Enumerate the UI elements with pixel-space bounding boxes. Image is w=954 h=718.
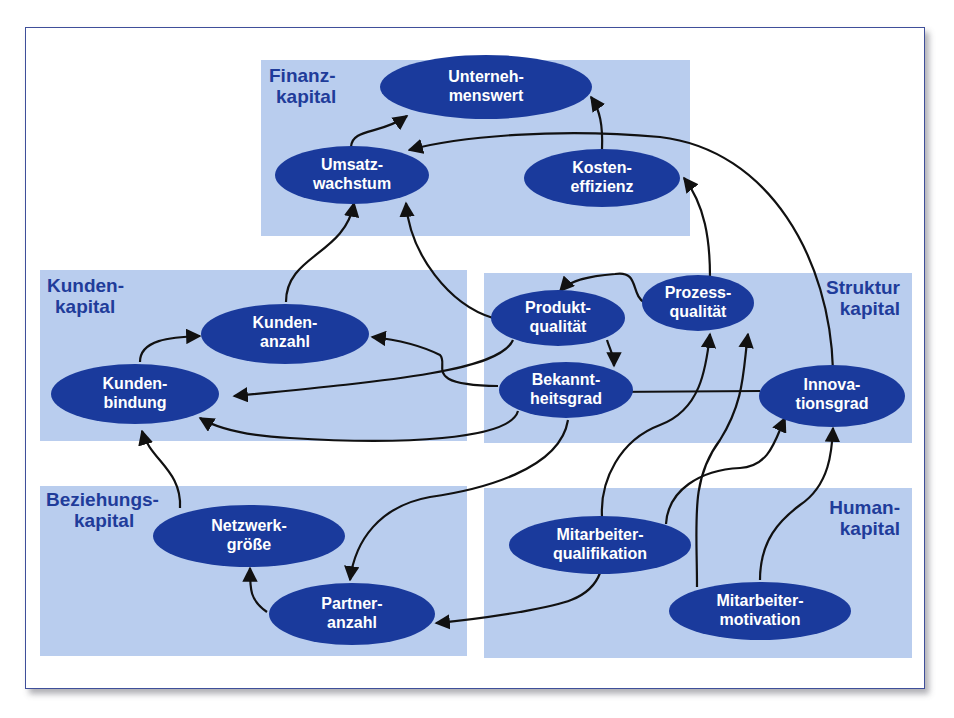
panel-label-human-line1: Human- bbox=[829, 497, 900, 518]
node-prozessqualitaet: Prozess- qualität bbox=[642, 275, 754, 331]
panel-label-kunden-line2: kapital bbox=[55, 296, 115, 317]
node-produktqualitaet: Produkt- qualität bbox=[491, 290, 625, 346]
node-kosteneffizienz: Kosten- effizienz bbox=[524, 149, 680, 207]
panel-label-struktur-line1: Struktur bbox=[826, 277, 901, 298]
node-label-line1: Mitarbeiter- bbox=[716, 592, 803, 609]
panel-label-beziehungs-line2: kapital bbox=[74, 510, 134, 531]
panel-label-finanz-line1: Finanz- bbox=[269, 65, 336, 86]
panel-label-beziehungs-line1: Beziehungs- bbox=[46, 489, 159, 510]
node-label-line2: wachstum bbox=[312, 175, 391, 192]
node-netzwerkgroesse: Netzwerk- größe bbox=[153, 505, 345, 567]
node-label-line2: menswert bbox=[449, 87, 524, 104]
node-label-line1: Netzwerk- bbox=[211, 517, 287, 534]
node-label-line2: qualität bbox=[670, 303, 728, 320]
node-mitarbeitermotivation: Mitarbeiter- motivation bbox=[669, 582, 851, 640]
node-label-line2: heitsgrad bbox=[530, 390, 602, 407]
node-label-line1: Produkt- bbox=[525, 299, 591, 316]
panel-humankapital: Human- kapital bbox=[484, 488, 912, 658]
node-bekanntheitsgrad: Bekannt- heitsgrad bbox=[499, 362, 633, 418]
intellectual-capital-diagram: Finanz- kapital Kunden- kapital Struktur… bbox=[0, 0, 954, 718]
node-label-line1: Kunden- bbox=[103, 375, 168, 392]
node-label-line2: effizienz bbox=[570, 178, 633, 195]
node-mitarbeiterqualifikation: Mitarbeiter- qualifikation bbox=[509, 516, 691, 574]
node-kundenbindung: Kunden- bindung bbox=[51, 364, 219, 424]
node-label-line1: Partner- bbox=[321, 595, 382, 612]
panel-label-kunden-line1: Kunden- bbox=[47, 275, 124, 296]
node-label-line2: motivation bbox=[720, 611, 801, 628]
node-label-line1: Mitarbeiter- bbox=[556, 526, 643, 543]
node-label-line2: qualität bbox=[530, 318, 588, 335]
node-label-line2: anzahl bbox=[260, 333, 310, 350]
node-label-line2: qualifikation bbox=[553, 545, 647, 562]
node-label-line1: Bekannt- bbox=[532, 371, 600, 388]
node-label-line1: Umsatz- bbox=[321, 156, 383, 173]
panel-label-human-line2: kapital bbox=[840, 518, 900, 539]
node-label-line1: Kunden- bbox=[253, 314, 318, 331]
node-unternehmenswert: Unterneh- menswert bbox=[380, 55, 592, 119]
node-label-line2: bindung bbox=[103, 394, 166, 411]
node-label-line1: Innova- bbox=[804, 376, 861, 393]
node-partneranzahl: Partner- anzahl bbox=[269, 583, 435, 645]
node-innovationsgrad: Innova- tionsgrad bbox=[759, 365, 905, 427]
node-label-line2: anzahl bbox=[327, 614, 377, 631]
node-umsatzwachstum: Umsatz- wachstum bbox=[275, 146, 429, 204]
node-label-line1: Kosten- bbox=[572, 159, 632, 176]
node-label-line1: Prozess- bbox=[665, 284, 732, 301]
node-label-line1: Unterneh- bbox=[448, 68, 524, 85]
node-kundenanzahl: Kunden- anzahl bbox=[201, 304, 369, 364]
node-label-line2: tionsgrad bbox=[796, 395, 869, 412]
panel-label-struktur-line2: kapital bbox=[840, 298, 900, 319]
node-label-line2: größe bbox=[227, 536, 272, 553]
panel-label-finanz-line2: kapital bbox=[276, 86, 336, 107]
